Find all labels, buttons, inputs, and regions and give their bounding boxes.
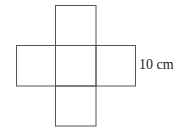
- square-top: [56, 6, 97, 46]
- square-bottom: [56, 86, 97, 126]
- square-left: [17, 46, 56, 87]
- dimension-label: 10 cm: [139, 57, 174, 73]
- square-right: [96, 46, 136, 87]
- square-center: [56, 46, 97, 87]
